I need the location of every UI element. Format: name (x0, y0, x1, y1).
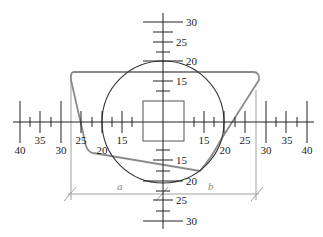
label-right-40: 40 (302, 144, 314, 156)
label-left-35: 35 (35, 134, 47, 146)
gauge-diagram: 40 35 30 25 20 15 15 20 25 30 35 40 30 2… (0, 0, 323, 237)
horizontal-axis-labels: 40 35 30 25 20 15 15 20 25 30 35 40 (15, 134, 314, 156)
label-left-20: 20 (97, 144, 109, 156)
dimension-label-b: b (208, 180, 214, 192)
label-top-15: 15 (176, 75, 188, 87)
label-bottom-15: 15 (176, 154, 188, 166)
label-right-35: 35 (282, 134, 294, 146)
label-top-30: 30 (186, 16, 198, 28)
label-right-20: 20 (220, 144, 232, 156)
label-left-25: 25 (76, 134, 88, 146)
dimension-label-a: a (117, 180, 123, 192)
label-bottom-30: 30 (186, 215, 198, 227)
label-left-15: 15 (117, 134, 129, 146)
label-right-25: 25 (240, 134, 252, 146)
label-left-40: 40 (15, 144, 27, 156)
label-right-15: 15 (199, 134, 211, 146)
label-top-20: 20 (186, 55, 198, 67)
label-bottom-20: 20 (186, 175, 198, 187)
label-left-30: 30 (56, 144, 68, 156)
label-bottom-25: 25 (176, 194, 188, 206)
label-right-30: 30 (261, 144, 273, 156)
label-top-25: 25 (176, 36, 188, 48)
